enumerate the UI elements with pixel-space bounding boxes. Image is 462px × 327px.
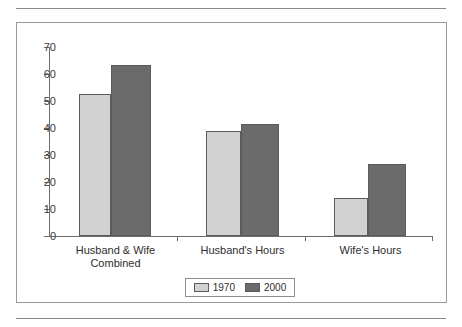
bar-2000-husband-wife-combined	[111, 65, 151, 236]
legend-item-1970: 1970	[194, 283, 235, 293]
x-axis-line	[49, 236, 433, 237]
x-axis-label-group-1-line-1: Husband & Wife	[53, 244, 178, 257]
legend-label-1970: 1970	[213, 283, 235, 293]
top-horizontal-rule	[16, 8, 446, 9]
y-tick-label-60: 60	[17, 69, 56, 80]
x-axis-label-group-2: Husband's Hours	[180, 244, 305, 257]
y-tick-label-70: 70	[17, 42, 56, 53]
y-tick-label-40: 40	[17, 123, 56, 134]
bar-1970-husband-wife-combined	[79, 94, 111, 236]
x-tick-separator-1	[177, 236, 178, 241]
chart-frame: 70 60 50 40 30 20 10 0 Husband & Wife	[16, 22, 447, 303]
bar-2000-husbands-hours	[241, 124, 279, 236]
legend-swatch-1970-icon	[194, 283, 209, 292]
x-axis-label-group-1: Husband & Wife Combined	[53, 244, 178, 270]
bottom-horizontal-rule	[16, 318, 446, 319]
legend-swatch-2000-icon	[245, 283, 260, 292]
legend-item-2000: 2000	[245, 283, 286, 293]
x-tick-separator-3	[432, 236, 433, 241]
x-axis-label-group-1-line-2: Combined	[53, 257, 178, 270]
x-axis-label-group-3-line-1: Wife's Hours	[308, 244, 433, 257]
legend-label-2000: 2000	[264, 283, 286, 293]
chart-legend: 1970 2000	[185, 278, 295, 297]
y-tick-label-50: 50	[17, 96, 56, 107]
y-tick-label-30: 30	[17, 150, 56, 161]
y-tick-label-0: 0	[17, 231, 56, 242]
y-tick-label-20: 20	[17, 177, 56, 188]
x-tick-separator-2	[305, 236, 306, 241]
bar-2000-wifes-hours	[368, 164, 406, 236]
x-axis-label-group-3: Wife's Hours	[308, 244, 433, 257]
bar-1970-wifes-hours	[334, 198, 368, 236]
figure-page: 70 60 50 40 30 20 10 0 Husband & Wife	[0, 0, 462, 327]
bar-1970-husbands-hours	[206, 131, 241, 236]
y-tick-label-10: 10	[17, 204, 56, 215]
x-axis-label-group-2-line-1: Husband's Hours	[180, 244, 305, 257]
